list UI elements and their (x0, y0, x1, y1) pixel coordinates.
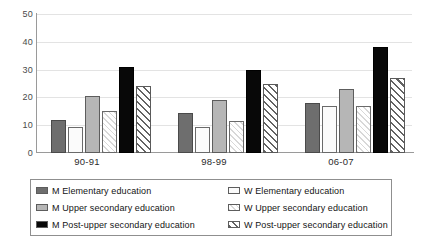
bar-w-post-upper-06-07 (390, 78, 405, 153)
bar-m-upper-90-91 (85, 96, 100, 153)
legend-label-w-upper-secondary: W Upper secondary education (244, 203, 368, 213)
legend-label-m-post-upper-secondary: M Post-upper secondary education (52, 220, 195, 230)
bar-group-06-07 (305, 14, 405, 153)
y-tick-0: 0 (3, 148, 33, 158)
bar-m-post-upper-98-99 (246, 70, 261, 153)
legend-item-m-upper-secondary: M Upper secondary education (36, 203, 228, 213)
bar-m-upper-06-07 (339, 89, 354, 153)
y-tick-30: 30 (3, 65, 33, 75)
legend-label-w-post-upper-secondary: W Post-upper secondary education (244, 220, 388, 230)
y-tick-20: 20 (3, 92, 33, 102)
bar-m-elementary-90-91 (51, 120, 66, 153)
bar-w-elementary-06-07 (322, 106, 337, 153)
bar-w-elementary-98-99 (195, 127, 210, 153)
grouped-bar-chart: 50 40 30 20 10 0 90-91 98-99 06-07 M Ele… (0, 0, 422, 250)
bar-w-post-upper-90-91 (136, 86, 151, 153)
bar-w-upper-06-07 (356, 106, 371, 153)
bar-group-90-91 (51, 14, 151, 153)
y-tick-40: 40 (3, 37, 33, 47)
x-tick-06-07: 06-07 (305, 156, 377, 167)
legend-item-m-elementary: M Elementary education (36, 186, 228, 196)
y-tick-10: 10 (3, 120, 33, 130)
legend-item-w-elementary: W Elementary education (228, 186, 391, 196)
bar-m-elementary-98-99 (178, 113, 193, 153)
legend-swatch-m-elementary-icon (36, 187, 48, 194)
chart-legend: M Elementary education W Elementary educ… (30, 179, 392, 236)
bar-w-elementary-90-91 (68, 127, 83, 153)
y-axis-tick-labels: 50 40 30 20 10 0 (0, 14, 33, 153)
legend-swatch-w-elementary-icon (228, 187, 240, 194)
legend-item-w-upper-secondary: W Upper secondary education (228, 203, 391, 213)
legend-item-m-post-upper-secondary: M Post-upper secondary education (36, 220, 228, 230)
legend-swatch-w-upper-secondary-icon (228, 204, 240, 211)
y-tick-50: 50 (3, 9, 33, 19)
legend-label-w-elementary: W Elementary education (244, 186, 344, 196)
legend-swatch-w-post-upper-secondary-icon (228, 221, 240, 228)
legend-label-m-upper-secondary: M Upper secondary education (52, 203, 175, 213)
x-tick-90-91: 90-91 (51, 156, 123, 167)
bar-w-upper-90-91 (102, 111, 117, 153)
bars-layer (37, 14, 412, 153)
bar-m-post-upper-06-07 (373, 47, 388, 153)
bar-m-post-upper-90-91 (119, 67, 134, 153)
legend-swatch-m-upper-secondary-icon (36, 204, 48, 211)
bar-w-post-upper-98-99 (263, 84, 278, 154)
legend-label-m-elementary: M Elementary education (52, 186, 151, 196)
bar-m-elementary-06-07 (305, 103, 320, 153)
legend-item-w-post-upper-secondary: W Post-upper secondary education (228, 220, 391, 230)
bar-w-upper-98-99 (229, 121, 244, 153)
bar-m-upper-98-99 (212, 100, 227, 153)
legend-grid: M Elementary education W Elementary educ… (31, 180, 391, 235)
x-tick-98-99: 98-99 (178, 156, 250, 167)
legend-swatch-m-post-upper-secondary-icon (36, 221, 48, 228)
bar-group-98-99 (178, 14, 278, 153)
